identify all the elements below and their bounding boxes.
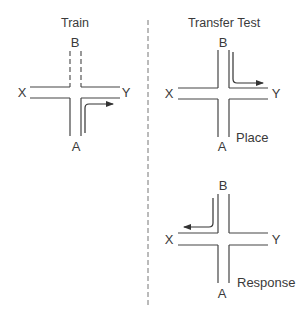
transfer-title: Transfer Test	[188, 16, 261, 30]
place-label-y: Y	[272, 86, 281, 101]
train-label-y: Y	[122, 85, 131, 100]
response-maze-group: B X Y A Response	[165, 178, 296, 301]
response-path-arrow	[184, 198, 213, 227]
train-path-arrow	[85, 104, 113, 133]
train-label-x: X	[18, 85, 27, 100]
place-maze-group: B X Y A Place	[165, 35, 281, 154]
response-label-b: B	[219, 178, 228, 193]
response-condition-label: Response	[237, 275, 296, 290]
train-panel: Train B X Y A	[18, 16, 131, 154]
place-label-x: X	[165, 86, 174, 101]
place-label-a: A	[218, 139, 227, 154]
maze-diagram: Train B X Y A Transfer Test B X Y A Pla	[0, 0, 308, 319]
train-label-a: A	[72, 139, 81, 154]
response-label-x: X	[165, 232, 174, 247]
place-condition-label: Place	[236, 130, 269, 145]
place-maze	[178, 50, 268, 137]
train-maze	[30, 51, 120, 136]
response-label-a: A	[218, 286, 227, 301]
place-label-b: B	[219, 35, 228, 50]
train-title: Train	[61, 16, 89, 30]
response-maze	[178, 194, 268, 283]
train-label-b: B	[71, 35, 80, 50]
response-label-y: Y	[272, 232, 281, 247]
place-path-arrow	[233, 52, 263, 83]
